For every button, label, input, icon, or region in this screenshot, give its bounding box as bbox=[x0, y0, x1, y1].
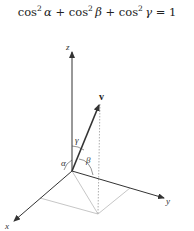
x-axis-label: x bbox=[4, 221, 9, 231]
alpha-label: α bbox=[61, 158, 66, 168]
x-axis bbox=[14, 171, 72, 221]
3d-vector-diagram: z y x v γ α β bbox=[0, 0, 194, 231]
vertical-projection-line bbox=[98, 104, 100, 214]
projection-guides bbox=[40, 171, 130, 214]
beta-label: β bbox=[85, 155, 91, 165]
y-axis-label: y bbox=[165, 196, 170, 206]
gamma-label: γ bbox=[75, 135, 79, 145]
vector-v-label: v bbox=[99, 91, 104, 102]
z-axis-label: z bbox=[65, 42, 70, 52]
